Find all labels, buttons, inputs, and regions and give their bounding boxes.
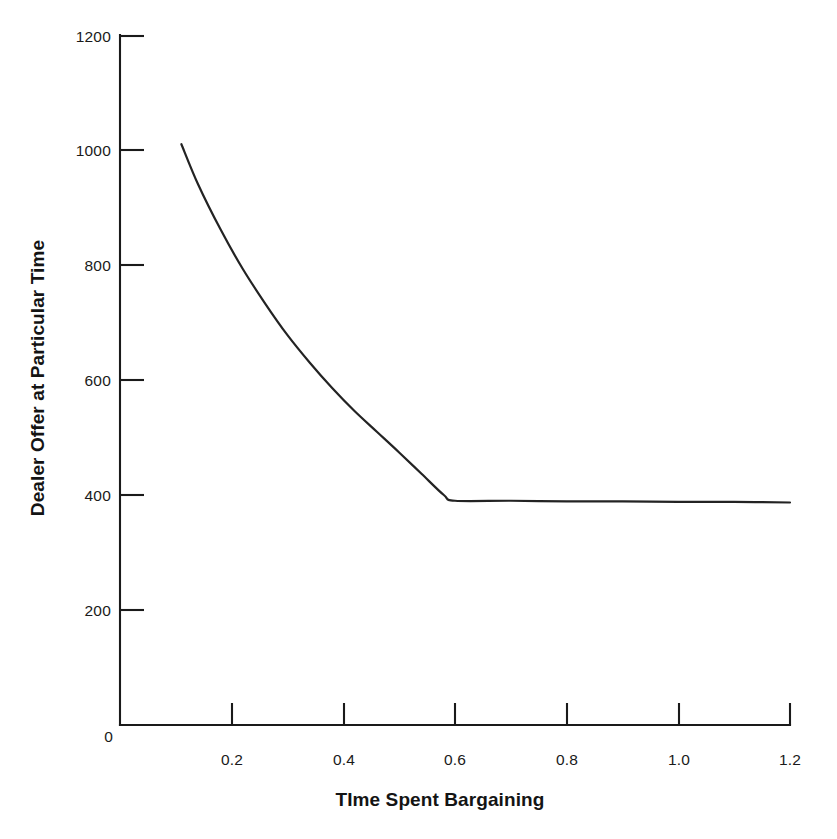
x-tick-label-0-4: 0.4 — [333, 751, 355, 768]
y-tick-label-600: 600 — [85, 372, 112, 389]
y-tick-label-0: 0 — [104, 728, 113, 745]
x-axis-ticks — [232, 703, 790, 725]
y-axis-ticks — [120, 36, 144, 610]
y-axis-title: Dealer Offer at Particular Time — [27, 240, 48, 516]
y-tick-label-400: 400 — [85, 487, 112, 504]
y-tick-label-1000: 1000 — [76, 142, 111, 159]
series-line-dealer-offer — [181, 144, 790, 502]
x-tick-label-0-8: 0.8 — [556, 751, 578, 768]
y-axis-tick-labels: 1200 1000 800 600 400 200 0 — [76, 28, 113, 745]
x-axis-title: TIme Spent Bargaining — [335, 789, 544, 810]
x-tick-label-0-2: 0.2 — [221, 751, 243, 768]
x-axis-tick-labels: 0.2 0.4 0.6 0.8 1.0 1.2 — [221, 751, 801, 768]
chart-figure: 1200 1000 800 600 400 200 0 0.2 0.4 0.6 … — [0, 0, 837, 839]
y-tick-label-800: 800 — [85, 257, 112, 274]
y-tick-label-200: 200 — [85, 602, 112, 619]
x-tick-label-1-0: 1.0 — [668, 751, 690, 768]
x-tick-label-0-6: 0.6 — [444, 751, 466, 768]
x-tick-label-1-2: 1.2 — [779, 751, 801, 768]
chart-plot-area: 1200 1000 800 600 400 200 0 0.2 0.4 0.6 … — [0, 0, 837, 839]
y-tick-label-1200: 1200 — [76, 28, 111, 45]
